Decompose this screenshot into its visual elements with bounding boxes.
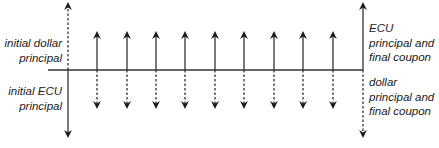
initial-dollar-principal-label: initial dollar principal <box>4 36 62 65</box>
label-line: dollar <box>369 75 434 90</box>
dollar-principal-final-coupon-label: dollar principal and final coupon <box>369 75 434 119</box>
label-line: final coupon <box>369 50 434 65</box>
initial-ecu-principal-label: initial ECU principal <box>8 84 62 113</box>
label-line: principal <box>8 99 62 114</box>
label-line: final coupon <box>369 104 434 119</box>
ecu-principal-final-coupon-label: ECU principal and final coupon <box>369 21 434 65</box>
label-line: principal <box>4 51 62 66</box>
label-line: principal and <box>369 90 434 105</box>
label-line: initial dollar <box>4 36 62 51</box>
label-line: ECU <box>369 21 434 36</box>
label-line: principal and <box>369 36 434 51</box>
label-line: initial ECU <box>8 84 62 99</box>
